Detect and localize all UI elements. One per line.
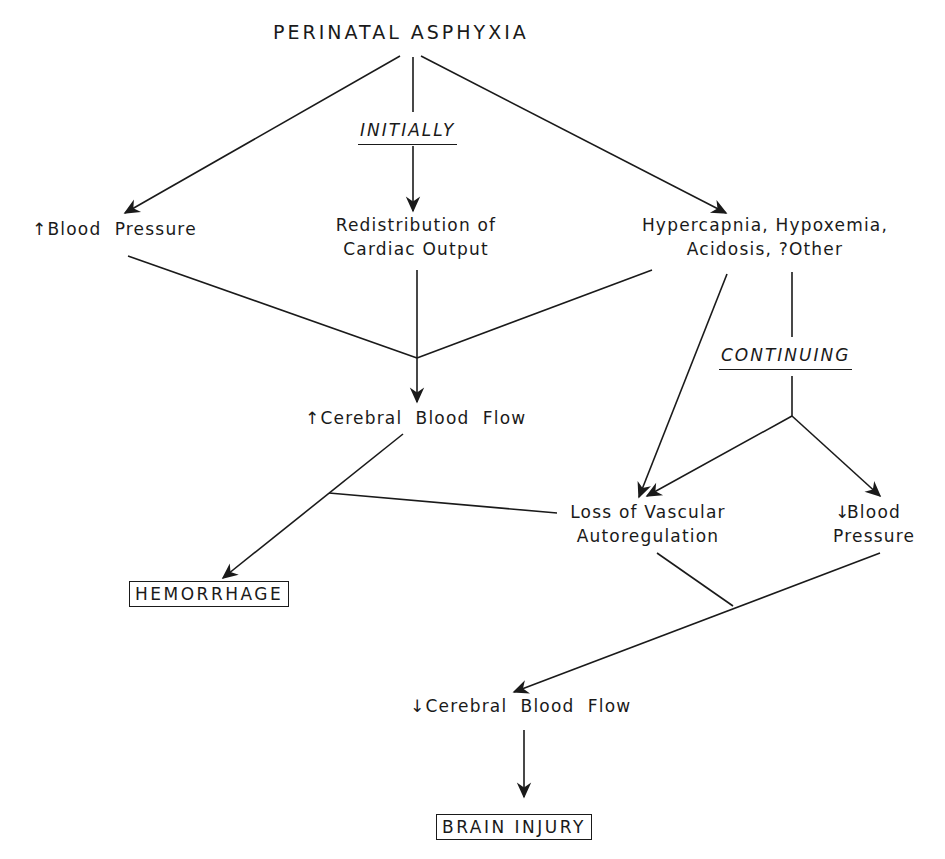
node-perinatal-asphyxia: PERINATAL ASPHYXIA (273, 20, 529, 44)
node-hypercapnia-hypoxemia-acidosis: Hypercapnia, Hypoxemia, Acidosis, ?Other (595, 213, 935, 261)
node-blood-pressure-increased: ↑Blood Pressure (32, 217, 197, 241)
edge-title-to-gases (421, 56, 726, 213)
edge-gases-to-loss (639, 274, 727, 497)
edge-bp-to-junction (128, 256, 417, 358)
arrow-up-icon: ↑ (32, 219, 47, 239)
edge-fork-to-loss (647, 416, 792, 496)
node-line-2: Pressure (833, 524, 943, 548)
phase-initially: INITIALLY (358, 118, 457, 145)
node-brain-injury: BRAIN INJURY (436, 814, 592, 840)
edge-fork-to-bp-down (792, 416, 880, 496)
node-label: Cerebral Blood Flow (320, 408, 526, 428)
node-line-2: Cardiac Output (300, 237, 532, 261)
arrow-down-icon: ↓ (835, 500, 850, 524)
edge-loss-to-hemorrhage-junction (329, 493, 557, 513)
node-label: Cerebral Blood Flow (425, 696, 631, 716)
edge-cbf-up-to-hemorrhage (223, 434, 403, 578)
node-hemorrhage: HEMORRHAGE (129, 581, 289, 607)
node-line-2: Acidosis, ?Other (595, 237, 935, 261)
node-cerebral-blood-flow-increased: ↑Cerebral Blood Flow (305, 406, 526, 430)
node-blood-pressure-decreased: ↓Blood Pressure (833, 500, 943, 548)
node-line-1: Loss of Vascular (553, 500, 743, 524)
edge-bp-down-to-cbf-down (514, 553, 880, 692)
node-redistribution-cardiac-output: Redistribution of Cardiac Output (300, 213, 532, 261)
node-line-1: Blood (847, 502, 901, 522)
node-line-1: Hypercapnia, Hypoxemia, (595, 213, 935, 237)
arrow-up-icon: ↑ (305, 408, 320, 428)
flow-diagram: PERINATAL ASPHYXIA INITIALLY ↑Blood Pres… (0, 0, 945, 859)
node-loss-vascular-autoregulation: Loss of Vascular Autoregulation (553, 500, 743, 548)
node-label: Blood Pressure (47, 219, 196, 239)
node-line-2: Autoregulation (553, 524, 743, 548)
phase-continuing: CONTINUING (719, 343, 852, 370)
arrow-down-icon: ↓ (410, 696, 425, 716)
node-cerebral-blood-flow-decreased: ↓Cerebral Blood Flow (410, 694, 631, 718)
edge-loss-to-junction2 (657, 553, 733, 606)
node-line-1: Redistribution of (300, 213, 532, 237)
edge-gases-to-junction (417, 270, 652, 358)
